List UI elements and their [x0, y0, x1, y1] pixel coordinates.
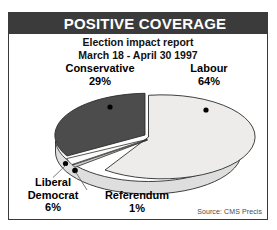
marker-dot-referendum — [72, 168, 78, 174]
slice-label-labour-name: Labour — [176, 62, 242, 75]
source-attribution: Source: CMS Precis — [197, 208, 262, 215]
slice-label-referendum-name: Referendum — [95, 189, 179, 202]
positive-coverage-chart-card: POSITIVE COVERAGE Election impact report… — [8, 12, 268, 220]
slice-label-conservative-value: 29% — [55, 75, 145, 88]
slice-label-conservative: Conservative 29% — [55, 62, 145, 87]
slice-label-conservative-name: Conservative — [55, 62, 145, 75]
marker-dot-conservative — [107, 104, 112, 109]
pie-slice-conservative[interactable] — [55, 93, 145, 156]
slice-label-labour-value: 64% — [176, 75, 242, 88]
slice-label-liberal-democrat-name-1: Liberal — [15, 176, 91, 189]
slice-label-labour: Labour 64% — [176, 62, 242, 87]
slice-label-liberal-democrat-name-2: Democrat — [15, 189, 91, 202]
slice-label-referendum-value: 1% — [95, 202, 179, 215]
slice-label-referendum: Referendum 1% — [95, 189, 179, 214]
marker-dot-labour — [203, 107, 208, 112]
marker-dot-liberal-democrat — [63, 161, 68, 166]
slice-label-liberal-democrat-value: 6% — [15, 201, 91, 214]
slice-label-liberal-democrat: Liberal Democrat 6% — [15, 176, 91, 214]
